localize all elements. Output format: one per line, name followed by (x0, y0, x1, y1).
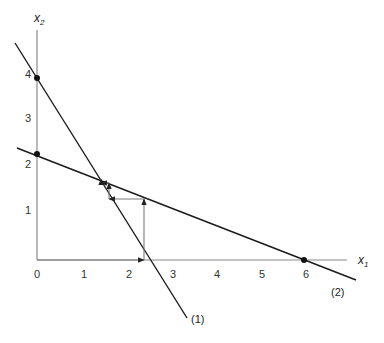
y-tick-4: 4 (25, 68, 31, 80)
point-line1-y-intercept (34, 75, 40, 81)
x-tick-0: 0 (34, 268, 40, 280)
x-tick-3: 3 (170, 268, 176, 280)
x-tick-1: 1 (81, 268, 87, 280)
y-tick-1: 1 (25, 204, 31, 216)
x-tick-4: 4 (214, 268, 220, 280)
y-axis-label: x2 (33, 11, 45, 27)
y-tick-2: 2 (25, 158, 31, 170)
y-tick-3: 3 (25, 112, 31, 124)
line-1-label: (1) (191, 313, 204, 325)
linear-equations-diagram: x2 x1 0 1 2 3 4 5 6 1 2 3 4 (1) (2) (0, 0, 384, 343)
x-tick-6: 6 (303, 268, 309, 280)
point-line2-y-intercept (34, 151, 40, 157)
point-line2-x-intercept (301, 257, 307, 263)
x-tick-5: 5 (259, 268, 265, 280)
x-tick-2: 2 (126, 268, 132, 280)
x-axis-label: x1 (357, 253, 368, 269)
line-2-label: (2) (331, 286, 344, 298)
